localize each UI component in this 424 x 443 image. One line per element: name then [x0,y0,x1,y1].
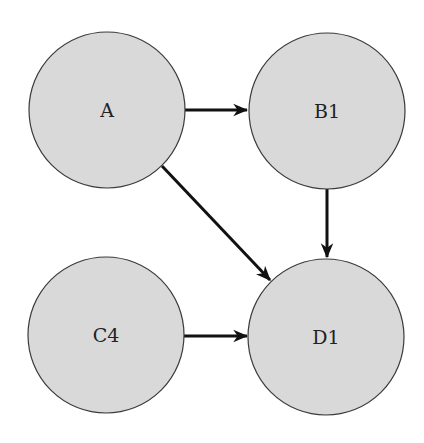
graph-canvas: A B1 C4 D1 [0,0,424,443]
node-d1-label: D1 [312,326,339,348]
node-c4: C4 [28,257,184,413]
node-a-label: A [99,99,114,121]
directed-graph: A B1 C4 D1 [0,0,424,443]
node-d1: D1 [248,259,404,415]
edge-a-to-d1 [162,166,270,280]
node-b1-label: B1 [314,100,340,122]
node-c4-label: C4 [93,324,120,346]
node-a: A [29,32,185,188]
node-b1: B1 [249,33,405,189]
